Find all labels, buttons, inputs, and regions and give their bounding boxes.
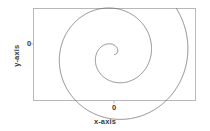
x-axis-label: x-axis — [0, 118, 210, 126]
y-axis-tick-label-0: 0 — [0, 40, 58, 48]
figure-container: 0 0 x-axis y-axis — [0, 0, 210, 131]
x-axis-tick-label-0: 0 — [0, 104, 210, 112]
y-axis-label: y-axis — [13, 26, 21, 86]
